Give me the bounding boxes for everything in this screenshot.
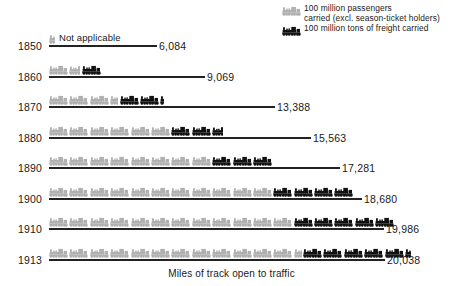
train-icon-gray (90, 95, 109, 105)
train-icon-gray (69, 187, 88, 197)
train-icon-black (212, 126, 223, 136)
train-icon-gray (49, 65, 68, 75)
train-icon-gray (131, 156, 150, 166)
train-icon-gray (171, 217, 190, 227)
train-icon-gray (90, 156, 109, 166)
train-glyph-group (49, 33, 56, 44)
pictorial-bar-chart: 18506,084Not applicable18609,069187013,3… (0, 0, 463, 286)
train-icon-black (171, 126, 190, 136)
row-year-label: 1913 (18, 254, 42, 266)
track-line (49, 45, 157, 47)
train-icon-gray (192, 156, 211, 166)
train-icon-gray (151, 156, 170, 166)
track-line (49, 259, 385, 261)
track-line (49, 198, 362, 200)
train-icon-gray (192, 217, 211, 227)
train-icon-black (355, 217, 374, 227)
train-icon-gray (110, 187, 129, 197)
train-icon-gray (131, 217, 150, 227)
train-icon-black (160, 95, 164, 105)
train-icon-gray (273, 217, 292, 227)
chart-row: 191019,986 (0, 201, 463, 231)
train-icon-gray (110, 217, 129, 227)
train-icon-gray (151, 248, 170, 258)
train-icon-gray (49, 248, 68, 258)
train-icon-black (364, 248, 383, 258)
train-icon-gray (110, 248, 129, 258)
train-icon-gray (151, 126, 170, 136)
train-icon-gray (171, 187, 190, 197)
train-icon-gray (131, 126, 150, 136)
train-icon-black (294, 217, 313, 227)
train-icon-black (212, 156, 231, 166)
train-icon-gray (90, 248, 109, 258)
train-icon-gray (192, 187, 211, 197)
chart-row: 18506,084Not applicable (0, 18, 463, 48)
train-icon-gray (233, 187, 252, 197)
train-icon-black (303, 248, 322, 258)
train-icon-gray (151, 187, 170, 197)
train-icon-black (314, 217, 333, 227)
train-icon-black (334, 187, 353, 197)
train-icon-gray (253, 187, 272, 197)
train-icon-gray (49, 95, 68, 105)
train-icon-gray (49, 126, 68, 136)
track-line (49, 137, 311, 139)
train-icon-gray (273, 248, 292, 258)
train-icon-black (253, 156, 272, 166)
train-icon-black (375, 217, 394, 227)
train-icon-black (314, 187, 333, 197)
train-icon-gray (212, 187, 231, 197)
train-glyph-group (49, 186, 355, 197)
train-icon-gray (69, 217, 88, 227)
train-icon-gray (131, 187, 150, 197)
track-line (49, 228, 384, 230)
train-glyph-group (49, 155, 273, 166)
train-icon-gray (253, 217, 272, 227)
train-icon-gray (69, 248, 88, 258)
train-icon-gray (110, 126, 129, 136)
train-icon-gray (294, 248, 302, 258)
chart-row: 190018,680 (0, 171, 463, 201)
train-glyph-group (49, 216, 396, 227)
train-icon-black (273, 187, 292, 197)
train-icon-gray (69, 95, 88, 105)
train-glyph-group (49, 94, 166, 105)
train-glyph-group (49, 125, 225, 136)
train-icon-black (233, 156, 252, 166)
train-icon-black (192, 126, 211, 136)
train-icon-gray (110, 156, 129, 166)
train-icon-gray (212, 217, 231, 227)
train-icon-black (344, 248, 363, 258)
train-icon-gray (69, 156, 88, 166)
chart-row: 191320,038 (0, 232, 463, 262)
train-icon-gray (131, 248, 150, 258)
train-icon-gray (90, 126, 109, 136)
train-icon-gray (253, 248, 272, 258)
train-icon-black (82, 65, 101, 75)
not-applicable-label: Not applicable (59, 32, 121, 43)
train-icon-gray (212, 248, 231, 258)
track-line (49, 106, 275, 108)
train-icon-gray (192, 248, 211, 258)
train-icon-black (120, 95, 139, 105)
train-icon-black (385, 248, 404, 258)
train-icon-gray (233, 248, 252, 258)
train-icon-gray (49, 217, 68, 227)
train-icon-gray (69, 126, 88, 136)
train-glyph-group (49, 247, 412, 258)
chart-row: 187013,388 (0, 79, 463, 109)
chart-row: 18609,069 (0, 49, 463, 79)
train-icon-gray (171, 156, 190, 166)
track-line (49, 167, 340, 169)
train-icon-gray (90, 217, 109, 227)
train-icon-gray (69, 65, 80, 75)
chart-row: 189017,281 (0, 140, 463, 170)
train-glyph-group (49, 64, 102, 75)
train-icon-black (294, 187, 313, 197)
train-icon-black (140, 95, 159, 105)
axis-caption: Miles of track open to traffic (0, 268, 463, 279)
train-icon-gray (49, 34, 55, 44)
track-line (49, 76, 205, 78)
train-icon-gray (49, 156, 68, 166)
